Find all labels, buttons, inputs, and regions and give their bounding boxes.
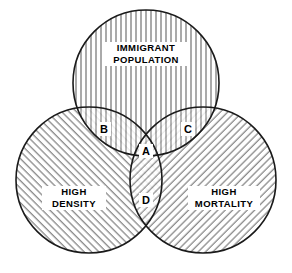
set-label-high-mortality-line1: HIGH bbox=[211, 186, 236, 197]
venn-diagram: IMMIGRANT POPULATION HIGH DENSITY HIGH M… bbox=[0, 0, 292, 273]
set-label-high-mortality: HIGH MORTALITY bbox=[188, 186, 260, 210]
set-label-high-density-line2: DENSITY bbox=[52, 198, 96, 209]
region-label-c: C bbox=[181, 122, 195, 136]
set-label-immigrant-population-line2: POPULATION bbox=[113, 54, 179, 65]
set-label-immigrant-population: IMMIGRANT POPULATION bbox=[104, 42, 188, 66]
region-label-a: A bbox=[139, 144, 153, 158]
region-label-b-text: B bbox=[100, 123, 108, 135]
region-label-d: D bbox=[139, 193, 153, 207]
region-label-c-text: C bbox=[184, 123, 192, 135]
venn-diagram-canvas: IMMIGRANT POPULATION HIGH DENSITY HIGH M… bbox=[0, 0, 292, 273]
region-label-d-text: D bbox=[142, 194, 150, 206]
set-label-high-density-line1: HIGH bbox=[61, 186, 86, 197]
set-label-high-density: HIGH DENSITY bbox=[42, 186, 106, 210]
region-label-b: B bbox=[97, 122, 111, 136]
region-label-a-text: A bbox=[142, 145, 150, 157]
set-label-immigrant-population-line1: IMMIGRANT bbox=[117, 42, 175, 53]
set-label-high-mortality-line2: MORTALITY bbox=[195, 198, 254, 209]
